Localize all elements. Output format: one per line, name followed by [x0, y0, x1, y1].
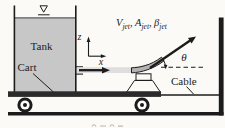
pedestal [127, 74, 161, 93]
inclined-jet-arrow [150, 37, 196, 69]
tank-water [15, 18, 77, 93]
coordinate-axes: z x [77, 31, 107, 67]
pedestal-base [127, 80, 161, 92]
z-axis-arrowhead-icon [87, 37, 91, 43]
beta-jet-subscript: jet [158, 22, 167, 31]
cart-label: Cart [18, 61, 37, 73]
tank-label: Tank [31, 40, 53, 52]
wheel-front [17, 97, 32, 112]
cable-leader-line [187, 87, 194, 95]
jet-parameters-label: Vjet,Ajet,βjet [116, 17, 168, 31]
pedestal-stem [136, 74, 151, 81]
tank-cart-jet-diagram: Tank Cart z x θ Vjet,Ajet,βj [0, 0, 225, 128]
separator: , [149, 17, 152, 28]
figure-canvas: Tank Cart z x θ Vjet,Ajet,βj [0, 0, 225, 128]
cart-platform [8, 91, 161, 97]
wheel-rear [134, 97, 149, 112]
separator: , [130, 17, 133, 28]
free-surface-icon [38, 6, 50, 15]
x-axis-label: x [98, 56, 104, 67]
tank: Tank [14, 6, 76, 93]
z-axis-label: z [77, 31, 82, 42]
cable-label: Cable [171, 75, 197, 87]
theta-label: θ [181, 51, 187, 63]
cropped-caption-fragment [92, 125, 123, 127]
wall [219, 18, 224, 116]
vane [132, 57, 165, 73]
